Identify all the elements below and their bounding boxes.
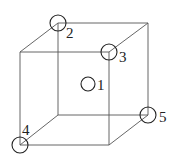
atom-1-circle: [81, 77, 95, 91]
edge-depth-top-right: [109, 23, 148, 52]
cube-svg: 1 2 3 4 5: [0, 0, 176, 161]
edge-depth-bottom-right: [109, 115, 148, 145]
atom-2-label: 2: [66, 25, 74, 41]
edge-depth-top-left: [20, 23, 58, 52]
atom-1-label: 1: [97, 77, 105, 93]
atom-5-label: 5: [159, 109, 167, 125]
atom-3-label: 3: [119, 49, 127, 65]
atom-4-label: 4: [22, 122, 30, 138]
cube-diagram: 1 2 3 4 5: [0, 0, 176, 161]
